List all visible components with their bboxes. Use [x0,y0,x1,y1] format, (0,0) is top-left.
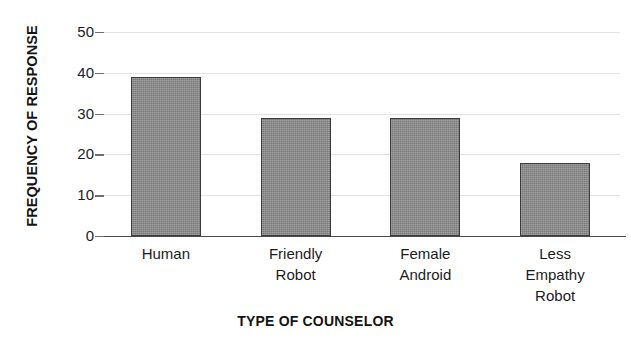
x-tick-label-line: Robot [490,285,620,306]
y-tick-label: 0 [48,228,94,243]
x-tick-label: FemaleAndroid [361,243,491,285]
x-tick-label: FriendlyRobot [231,243,361,285]
bar-chart: FREQUENCY OF RESPONSE 01020304050 HumanF… [0,0,631,344]
plot-area [101,32,620,236]
y-tick-mark [95,195,104,196]
x-tick-label: LessEmpathyRobot [490,243,620,306]
y-tick-label: 10 [48,187,94,202]
x-tick-label-line: Empathy [490,264,620,285]
y-tick-mark [95,236,104,237]
x-axis-line [95,236,626,237]
x-axis-tick-labels: HumanFriendlyRobotFemaleAndroidLessEmpat… [101,243,620,313]
gridline [101,32,620,33]
x-tick-label-line: Friendly [231,243,361,264]
y-axis-tick-labels: 01020304050 [44,0,94,344]
y-tick-mark [95,73,104,74]
x-tick-label-line: Female [361,243,491,264]
y-tick-label: 40 [48,65,94,80]
y-tick-mark [95,114,104,115]
x-axis-title: TYPE OF COUNSELOR [0,313,631,329]
y-tick-label: 30 [48,106,94,121]
bar [520,163,590,236]
x-tick-label-line: Less [490,243,620,264]
y-tick-label: 20 [48,146,94,161]
y-tick-mark [95,154,104,155]
bar [131,77,201,236]
bar [261,118,331,236]
y-tick-mark [95,32,104,33]
y-axis-title: FREQUENCY OF RESPONSE [24,6,40,246]
y-tick-label: 50 [48,24,94,39]
gridline [101,73,620,74]
bar [390,118,460,236]
x-tick-label-line: Human [101,243,231,264]
x-tick-label: Human [101,243,231,264]
x-tick-label-line: Robot [231,264,361,285]
x-tick-label-line: Android [361,264,491,285]
